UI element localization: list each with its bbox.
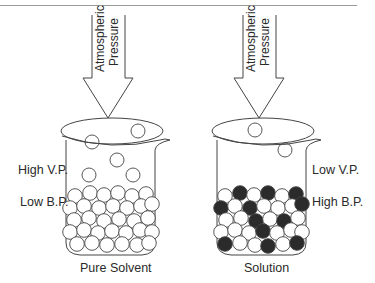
solvent-particle xyxy=(228,223,243,238)
vapor-particles xyxy=(248,123,292,157)
arrow-label-line2: Pressure xyxy=(107,18,121,66)
arrow-label-line1: Atmospheric xyxy=(93,5,107,72)
liquid-particles xyxy=(214,186,310,254)
solvent-particle xyxy=(85,236,100,251)
solute-particle xyxy=(290,236,305,251)
solvent-particle xyxy=(248,238,263,253)
solvent-particle xyxy=(131,124,145,138)
arrow-label-line1: Atmospheric xyxy=(244,5,258,72)
arrow-label-line2: Pressure xyxy=(258,18,272,66)
solvent-particle xyxy=(278,143,292,157)
solvent-particle xyxy=(126,168,140,182)
solvent-particle xyxy=(77,223,92,238)
caption-solution: Solution xyxy=(244,261,289,275)
solvent-particle xyxy=(106,199,121,214)
atmospheric-pressure-arrow-left: Atmospheric Pressure xyxy=(83,5,133,118)
vapor-particles xyxy=(82,124,145,182)
solvent-particle xyxy=(257,199,272,214)
label-low-bp: Low B.P. xyxy=(20,195,68,209)
solvent-particle xyxy=(70,237,85,252)
solvent-particle xyxy=(83,186,98,201)
solvent-particle xyxy=(105,224,120,239)
label-high-vp: High V.P. xyxy=(18,163,68,177)
label-low-vp: Low V.P. xyxy=(312,163,359,177)
solvent-particle xyxy=(233,236,248,251)
solute-particle xyxy=(261,186,276,201)
caption-pure-solvent: Pure Solvent xyxy=(80,261,152,275)
solvent-particle xyxy=(111,186,126,201)
solute-particle xyxy=(261,239,276,254)
solvent-particle xyxy=(248,123,262,137)
solvent-particle xyxy=(142,236,157,251)
solvent-particle xyxy=(145,197,160,212)
label-high-bp: High B.P. xyxy=(312,195,363,209)
solute-particle xyxy=(218,237,233,252)
solvent-particle xyxy=(100,238,115,253)
solvent-particle xyxy=(276,237,291,252)
liquid-particles xyxy=(63,186,160,253)
solvent-particle xyxy=(82,168,96,182)
atmospheric-pressure-arrow-right: Atmospheric Pressure xyxy=(234,5,284,118)
solute-particle xyxy=(233,186,248,201)
solvent-particle xyxy=(110,153,124,167)
solvent-particle xyxy=(115,237,130,252)
beaker-pure-solvent xyxy=(61,118,170,255)
beaker-solution xyxy=(212,118,321,255)
colligative-properties-diagram: Atmospheric Pressure Atmospheric Pressur… xyxy=(0,0,375,283)
solute-particle xyxy=(295,197,310,212)
solute-particle xyxy=(256,224,271,239)
